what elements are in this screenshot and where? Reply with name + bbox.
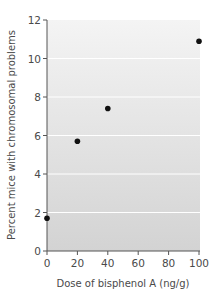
x-tick-label: 20 xyxy=(71,257,84,269)
x-axis-ticks: 020406080100 xyxy=(44,251,209,269)
x-tick-label: 40 xyxy=(101,257,114,269)
y-tick-label: 0 xyxy=(34,245,41,257)
y-tick-label: 4 xyxy=(34,168,41,180)
scatter-chart: 024681012 020406080100 Dose of bisphenol… xyxy=(0,0,222,304)
y-tick-label: 8 xyxy=(34,91,41,103)
x-tick-label: 0 xyxy=(44,257,51,269)
data-point xyxy=(105,106,111,112)
x-tick-label: 100 xyxy=(189,257,209,269)
x-tick-label: 60 xyxy=(132,257,145,269)
data-point xyxy=(75,138,81,144)
y-tick-label: 6 xyxy=(34,130,41,142)
y-tick-label: 12 xyxy=(28,14,41,26)
y-tick-label: 2 xyxy=(34,207,41,219)
data-point xyxy=(44,215,50,221)
x-axis-title: Dose of bisphenol A (ng/g) xyxy=(57,278,190,289)
x-tick-label: 80 xyxy=(162,257,175,269)
y-tick-label: 10 xyxy=(28,53,41,65)
y-axis-title: Percent mice with chromosomal problems xyxy=(6,30,17,240)
y-axis-ticks: 024681012 xyxy=(28,14,47,257)
data-point xyxy=(196,38,202,44)
